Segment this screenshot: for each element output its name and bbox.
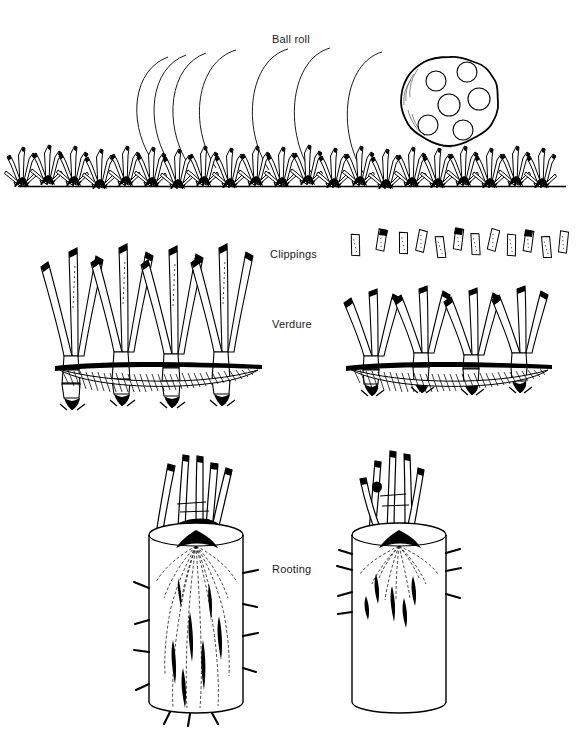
core-shoots-right <box>360 451 427 534</box>
panel-ball-roll <box>5 48 567 189</box>
motion-arc-1 <box>137 57 168 157</box>
soil-core-left <box>134 455 258 726</box>
soil-line-left <box>55 362 262 392</box>
core-shoots-left <box>157 455 236 531</box>
turf-stand-right <box>344 228 569 396</box>
core-body-right <box>352 535 446 713</box>
soil-core-right <box>337 451 461 713</box>
label-ball-roll: Ball roll <box>272 33 310 45</box>
turf-stand-left <box>41 244 262 410</box>
core-body-left <box>149 535 243 713</box>
clippings-fragments <box>350 228 568 259</box>
panel-rooting <box>134 451 461 726</box>
label-clippings: Clippings <box>270 248 317 260</box>
turfgrass-diagram <box>0 0 583 729</box>
label-verdure: Verdure <box>272 318 312 330</box>
golf-ball <box>401 57 498 147</box>
turf-canopy-ball-roll <box>5 145 557 189</box>
motion-arc-3 <box>173 53 206 164</box>
motion-arc-7 <box>347 52 382 174</box>
motion-arc-6 <box>294 48 330 172</box>
motion-arc-2 <box>154 55 186 161</box>
label-rooting: Rooting <box>272 563 311 575</box>
